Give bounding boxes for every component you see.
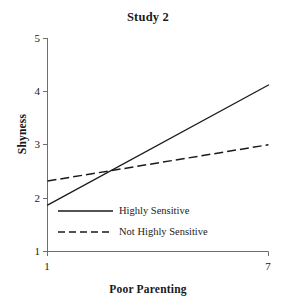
series-line-highly-sensitive <box>48 85 269 205</box>
chart-figure: Study 2 Shyness Poor Parenting 5 4 3 2 1… <box>0 0 296 308</box>
series-line-not-highly-sensitive <box>48 145 269 181</box>
plot-area <box>0 0 296 308</box>
